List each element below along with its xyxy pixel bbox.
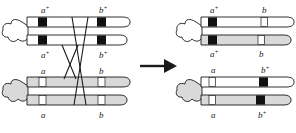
maternal-chromatid-1-band-a	[39, 77, 46, 86]
recombinant-upper-chromatid-2-band-a-plus	[208, 35, 217, 44]
maternal-chromatid-1-band-b	[98, 77, 105, 86]
paternal-chromatid-1-band-b-plus	[97, 17, 106, 26]
paternal-chromatid-2-band-a-plus	[38, 35, 47, 44]
label-right-bottom-a: a	[211, 110, 216, 120]
recombinant-lower-chromatid-1-band-a	[209, 77, 216, 86]
label-bottom-b: b	[99, 110, 104, 120]
label-right-lower-a: a	[211, 65, 216, 75]
label-bottom-a: a	[41, 110, 46, 120]
paternal-chromatid-1-band-a-plus	[38, 17, 47, 26]
maternal-chromatid-2-band-b	[98, 95, 105, 104]
recombinant-lower-chromatid-1-band-b-plus	[259, 77, 268, 86]
paternal-chromatid-2-band-b-plus	[97, 35, 106, 44]
crossing-over-figure: a+ b+ a+ b+ a b a b	[0, 0, 296, 133]
recombinant-lower-chromatid-2-band-a	[209, 95, 216, 104]
maternal-chromatid-2-band-a	[39, 95, 46, 104]
recombinant-upper-chromatid-1-band-a-plus	[208, 17, 217, 26]
label-mid-lower-a: a	[41, 66, 46, 76]
label-right-mid-b: b	[259, 49, 264, 59]
label-mid-lower-b: b	[99, 66, 104, 76]
recombinant-lower-chromatid-2-band-b-plus	[256, 95, 265, 104]
recombinant-upper-chromatid-1-band-b	[261, 17, 268, 26]
recombinant-upper-chromatid-2-band-b	[258, 35, 265, 44]
label-right-top-b: b	[262, 5, 267, 15]
